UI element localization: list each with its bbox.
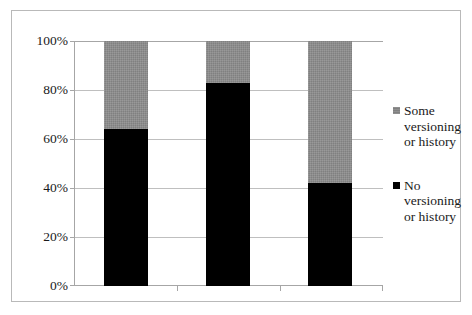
bar-segment-some-versioning[interactable] (104, 41, 148, 129)
y-tick-label-100: 100% (37, 34, 69, 48)
chart-legend: Some versioning or history No versioning… (393, 103, 471, 252)
y-tick-mark-100 (70, 41, 75, 42)
bar-segment-no-versioning[interactable] (206, 83, 250, 286)
legend-label-line-2: versioning (404, 193, 471, 209)
y-tick-mark-80 (70, 90, 75, 91)
y-tick-label-0: 0% (50, 279, 68, 293)
legend-entry-no-versioning[interactable]: No versioning or history (393, 178, 471, 225)
chart-figure: 100% 80% 60% 40% 20% 0% (0, 0, 472, 315)
legend-label-line-1: No (404, 178, 471, 194)
y-tick-label-60: 60% (43, 132, 68, 146)
y-tick-mark-40 (70, 188, 75, 189)
bar-segment-some-versioning[interactable] (308, 41, 352, 183)
legend-swatch-no-versioning-icon (393, 182, 400, 189)
legend-label-line-3: or history (404, 209, 471, 225)
x-tick-mark-1 (177, 286, 178, 291)
legend-label-line-1: Some (404, 103, 471, 119)
bar-segment-no-versioning[interactable] (308, 183, 352, 286)
bar-segment-some-versioning[interactable] (206, 41, 250, 83)
y-tick-label-40: 40% (43, 181, 68, 195)
plot-area: All documents Guidelines Policy (74, 41, 382, 286)
x-tick-mark-2 (280, 286, 281, 291)
bar-segment-no-versioning[interactable] (104, 129, 148, 286)
legend-swatch-some-versioning-icon (393, 107, 400, 114)
x-tick-mark-3 (382, 286, 383, 291)
y-tick-mark-20 (70, 237, 75, 238)
y-tick-label-20: 20% (43, 230, 68, 244)
y-tick-mark-60 (70, 139, 75, 140)
legend-label-line-3: or history (404, 134, 471, 150)
y-tick-mark-0 (70, 285, 75, 286)
chart-frame: 100% 80% 60% 40% 20% 0% (11, 10, 461, 302)
y-tick-label-80: 80% (43, 83, 68, 97)
legend-label-line-2: versioning (404, 119, 471, 135)
y-axis-labels: 100% 80% 60% 40% 20% 0% (12, 41, 68, 286)
legend-entry-some-versioning[interactable]: Some versioning or history (393, 103, 471, 150)
